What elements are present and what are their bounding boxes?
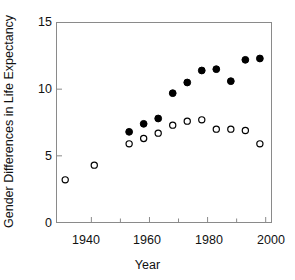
data-point-filled xyxy=(169,90,176,97)
data-point-open xyxy=(155,130,161,136)
data-point-open xyxy=(170,122,176,128)
data-point-filled xyxy=(256,55,263,62)
data-point-filled xyxy=(140,120,147,127)
data-markers xyxy=(62,55,263,183)
data-point-open xyxy=(199,117,205,123)
data-point-open xyxy=(62,177,68,183)
plot-frame-rect xyxy=(57,23,272,223)
data-point-open xyxy=(91,162,97,168)
data-point-filled xyxy=(213,66,220,73)
data-point-filled xyxy=(198,67,205,74)
axis-frame xyxy=(57,23,272,223)
data-point-open xyxy=(257,141,263,147)
plot-area xyxy=(0,0,295,280)
data-point-filled xyxy=(155,115,162,122)
data-point-filled xyxy=(242,56,249,63)
data-point-open xyxy=(228,126,234,132)
data-point-filled xyxy=(184,79,191,86)
data-point-filled xyxy=(227,78,234,85)
data-point-open xyxy=(141,135,147,141)
data-point-open xyxy=(242,127,248,133)
data-point-open xyxy=(126,141,132,147)
chart-figure: Gender Differences in Life Expectancy 0 … xyxy=(0,0,295,280)
data-point-open xyxy=(213,126,219,132)
data-point-filled xyxy=(126,128,133,135)
data-point-open xyxy=(184,118,190,124)
axis-ticks xyxy=(57,23,266,223)
